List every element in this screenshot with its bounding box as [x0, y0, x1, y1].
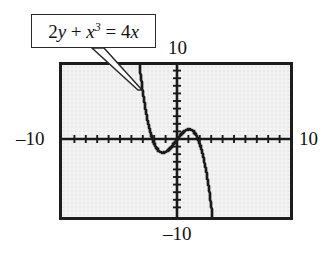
y-max-label: 10: [168, 38, 187, 57]
x-min-label: –10: [16, 129, 45, 148]
equation-callout-box: 2y + x3 = 4x: [31, 14, 156, 48]
equation-var-x: x: [86, 21, 94, 42]
equation-label: 2y + x3 = 4x: [48, 22, 139, 41]
equation-coefficient-x: 4: [121, 21, 131, 42]
calculator-screen: [59, 62, 293, 220]
equation-var-x2: x: [130, 21, 138, 42]
graph-figure: 10 –10 –10 10 2y + x3 = 4x: [0, 0, 332, 254]
equation-var-y: y: [58, 21, 66, 42]
plot-area: [62, 65, 290, 217]
equation-equals: =: [101, 21, 121, 42]
y-min-label: –10: [163, 224, 192, 243]
x-max-label: 10: [299, 129, 318, 148]
equation-plus: +: [66, 21, 86, 42]
equation-coefficient-y: 2: [48, 21, 58, 42]
